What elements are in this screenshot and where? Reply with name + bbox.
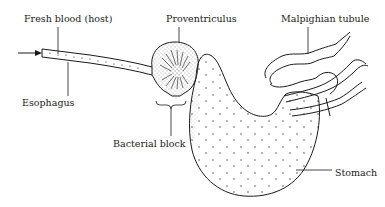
label-stomach: Stomach [335,168,377,178]
esophagus-tube [42,49,152,75]
label-esophagus: Esophagus [22,98,74,108]
label-fresh-blood: Fresh blood (host) [24,14,112,24]
flea-gut-diagram: Fresh blood (host) Proventriculus Malpig… [0,0,385,207]
label-bacterial-block: Bacterial block [113,139,186,149]
label-proventriculus: Proventriculus [166,14,237,24]
label-malpighian-tubule: Malpighian tubule [281,14,369,24]
proventriculus-bulb [152,42,199,96]
blood-flow-arrow [18,50,42,56]
stomach-shape [189,54,319,196]
